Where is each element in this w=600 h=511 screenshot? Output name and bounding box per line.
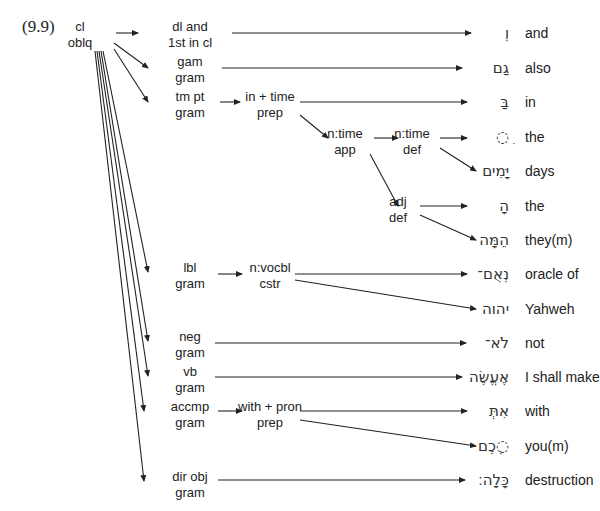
tree-node-nvocbl: n:vocblcstr bbox=[249, 260, 290, 292]
node-label-line2: gram bbox=[175, 276, 205, 292]
node-label-line1: with + pron bbox=[238, 399, 302, 415]
tree-node-adj-def: adjdef bbox=[389, 194, 407, 226]
tree-node-gam: gamgram bbox=[175, 54, 205, 86]
english-gloss: they(m) bbox=[525, 232, 572, 248]
node-label-line2: 1st in cl bbox=[168, 35, 212, 51]
node-label-line2: gram bbox=[175, 105, 205, 121]
hebrew-word: ִ◌ bbox=[496, 128, 509, 146]
english-gloss: the bbox=[525, 129, 544, 145]
node-label-line2: gram bbox=[175, 70, 205, 86]
tree-node-dir-obj: dir objgram bbox=[172, 469, 207, 501]
english-gloss: the bbox=[525, 198, 544, 214]
node-label-line2: prep bbox=[238, 415, 302, 431]
node-label-line1: neg bbox=[175, 329, 205, 345]
root-node-line1: cl bbox=[68, 19, 93, 35]
tree-node-neg: neggram bbox=[175, 329, 205, 361]
node-label-line1: in + time bbox=[245, 89, 295, 105]
hebrew-word: כָּלָה׃ bbox=[478, 471, 509, 489]
hebrew-word: יָּמִים bbox=[482, 162, 509, 180]
tree-node-dl-and: dl and1st in cl bbox=[168, 19, 212, 51]
hebrew-word: נְאֻם־ bbox=[478, 265, 509, 283]
node-label-line2: gram bbox=[175, 380, 205, 396]
english-gloss: you(m) bbox=[525, 438, 569, 454]
node-label-line1: dl and bbox=[168, 19, 212, 35]
node-label-line1: tm pt bbox=[175, 89, 205, 105]
hebrew-word: וְ bbox=[505, 24, 509, 42]
english-gloss: destruction bbox=[525, 472, 593, 488]
node-label-line2: def bbox=[394, 142, 429, 158]
node-label-line1: n:time bbox=[394, 126, 429, 142]
node-label-line1: adj bbox=[389, 194, 407, 210]
hebrew-word: בַּ bbox=[500, 93, 509, 111]
hebrew-word: יהוה bbox=[482, 300, 509, 318]
tree-node-accmp: accmpgram bbox=[171, 399, 209, 431]
tree-node-ntime-def: n:timedef bbox=[394, 126, 429, 158]
node-label-line2: prep bbox=[245, 105, 295, 121]
example-number: (9.9) bbox=[22, 17, 55, 37]
tree-node-ntime-app: n:timeapp bbox=[327, 126, 362, 158]
tree-node-with-pron: with + pronprep bbox=[238, 399, 302, 431]
node-label-line2: def bbox=[389, 210, 407, 226]
english-gloss: in bbox=[525, 94, 536, 110]
node-label-line1: n:time bbox=[327, 126, 362, 142]
tree-node-tm-pt: tm ptgram bbox=[175, 89, 205, 121]
node-label-line2: gram bbox=[171, 415, 209, 431]
hebrew-word: הָ bbox=[499, 197, 509, 215]
node-label-line1: vb bbox=[175, 364, 205, 380]
english-gloss: oracle of bbox=[525, 266, 579, 282]
node-label-line1: gam bbox=[175, 54, 205, 70]
english-gloss: with bbox=[525, 403, 550, 419]
english-gloss: not bbox=[525, 335, 544, 351]
root-node: cl oblq bbox=[68, 19, 93, 51]
node-label-line1: accmp bbox=[171, 399, 209, 415]
english-gloss: also bbox=[525, 60, 551, 76]
tree-node-in-time: in + timeprep bbox=[245, 89, 295, 121]
english-gloss: I shall make bbox=[525, 369, 600, 385]
hebrew-word: ◌ְכֶם bbox=[478, 437, 509, 455]
node-label-line2: gram bbox=[175, 345, 205, 361]
hebrew-word: אֶעֱשֶׂה bbox=[469, 368, 509, 386]
tree-node-lbl: lblgram bbox=[175, 260, 205, 292]
english-gloss: days bbox=[525, 163, 555, 179]
hebrew-word: אִתְּ bbox=[489, 402, 509, 420]
english-gloss: and bbox=[525, 25, 548, 41]
node-label-line2: gram bbox=[172, 485, 207, 501]
node-label-line1: n:vocbl bbox=[249, 260, 290, 276]
node-label-line1: dir obj bbox=[172, 469, 207, 485]
node-label-line2: cstr bbox=[249, 276, 290, 292]
hebrew-word: גַם bbox=[493, 59, 509, 77]
english-gloss: Yahweh bbox=[525, 301, 575, 317]
hebrew-word: הֵמָּה bbox=[479, 231, 509, 249]
tree-node-vb: vbgram bbox=[175, 364, 205, 396]
hebrew-word: לֹא־ bbox=[485, 334, 509, 352]
root-node-line2: oblq bbox=[68, 35, 93, 51]
node-label-line1: lbl bbox=[175, 260, 205, 276]
node-label-line2: app bbox=[327, 142, 362, 158]
